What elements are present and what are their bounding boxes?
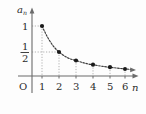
data-point-n2 <box>57 50 61 54</box>
data-point-n1 <box>40 24 44 28</box>
x-axis-arrowhead <box>133 74 139 79</box>
fraction-denominator: 2 <box>22 53 28 64</box>
origin-label: O <box>19 81 27 92</box>
x-tick-label-4: 4 <box>90 81 96 92</box>
x-tick-label-5: 5 <box>107 81 113 92</box>
x-tick-label-2: 2 <box>56 81 62 92</box>
plot-canvas: an n O 1 1 2 1 2 3 4 5 6 <box>0 0 146 114</box>
fraction-numerator: 1 <box>22 41 28 52</box>
y-axis-label: an <box>17 4 27 16</box>
x-axis-label: n <box>132 82 138 93</box>
y-axis-arrowhead <box>30 8 35 14</box>
drop-lines-group <box>42 26 125 76</box>
x-tick-label-3: 3 <box>73 81 79 92</box>
y-tick-label-1: 1 <box>22 21 28 32</box>
y-axis-label-subscript: n <box>23 9 27 16</box>
sequence-curve <box>42 26 132 70</box>
y-tick-label-half: 1 2 <box>21 41 30 64</box>
x-tick-label-6: 6 <box>122 81 128 92</box>
sequence-plot-figure: an n O 1 1 2 1 2 3 4 5 6 <box>0 0 146 114</box>
curve-trailing-arrowhead <box>130 67 136 72</box>
x-tick-labels-group: 1 2 3 4 5 6 <box>39 81 128 92</box>
data-point-n3 <box>74 58 78 62</box>
data-point-n5 <box>108 65 112 69</box>
data-point-n6 <box>123 67 127 71</box>
data-point-n4 <box>91 63 95 67</box>
x-tick-label-1: 1 <box>39 81 45 92</box>
data-points-group <box>40 24 127 71</box>
